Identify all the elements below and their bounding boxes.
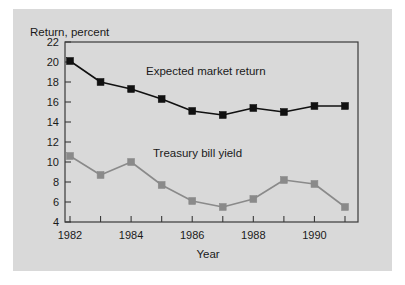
data-point-marker bbox=[342, 103, 349, 110]
data-point-marker bbox=[219, 204, 226, 211]
y-tick-label: 8 bbox=[53, 176, 59, 188]
y-tick-label: 14 bbox=[47, 116, 59, 128]
chart-figure: 22201816141210864 19821984198619881990 R… bbox=[0, 0, 405, 285]
series-treasury-bill-yield bbox=[67, 153, 349, 211]
data-point-marker bbox=[311, 103, 318, 110]
y-tick-label: 20 bbox=[47, 56, 59, 68]
y-tick-label: 4 bbox=[53, 216, 59, 228]
data-point-marker bbox=[128, 86, 135, 93]
y-tick-label: 12 bbox=[47, 136, 59, 148]
y-axis-tick-labels: 22201816141210864 bbox=[47, 36, 59, 228]
x-tick-label: 1984 bbox=[119, 229, 143, 241]
data-point-marker bbox=[158, 96, 165, 103]
series-label-expected-market-return: Expected market return bbox=[146, 65, 266, 77]
data-point-marker bbox=[250, 105, 257, 112]
data-point-marker bbox=[311, 181, 318, 188]
y-tick-label: 16 bbox=[47, 96, 59, 108]
data-point-marker bbox=[219, 112, 226, 119]
data-point-marker bbox=[342, 204, 349, 211]
data-point-marker bbox=[97, 79, 104, 86]
series-label-treasury-bill-yield: Treasury bill yield bbox=[153, 147, 242, 159]
y-tick-label: 18 bbox=[47, 76, 59, 88]
data-point-marker bbox=[280, 177, 287, 184]
x-tick-label: 1986 bbox=[180, 229, 204, 241]
x-tick-label: 1988 bbox=[241, 229, 265, 241]
data-point-marker bbox=[189, 198, 196, 205]
x-axis-title: Year bbox=[196, 248, 219, 260]
y-tick-label: 10 bbox=[47, 156, 59, 168]
data-point-marker bbox=[158, 182, 165, 189]
data-point-marker bbox=[67, 58, 74, 65]
data-point-marker bbox=[67, 153, 74, 160]
x-tick-label: 1982 bbox=[58, 229, 82, 241]
y-tick-label: 6 bbox=[53, 196, 59, 208]
data-point-marker bbox=[280, 109, 287, 116]
data-point-marker bbox=[128, 159, 135, 166]
data-point-marker bbox=[189, 108, 196, 115]
x-tick-label: 1990 bbox=[302, 229, 326, 241]
data-series-group bbox=[67, 58, 349, 211]
x-axis-tick-labels: 19821984198619881990 bbox=[58, 229, 327, 241]
y-axis-title: Return, percent bbox=[30, 26, 110, 38]
line-chart: 22201816141210864 19821984198619881990 R… bbox=[0, 0, 405, 285]
data-point-marker bbox=[97, 172, 104, 179]
data-point-marker bbox=[250, 196, 257, 203]
